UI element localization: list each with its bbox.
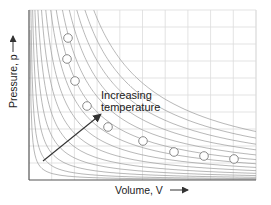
data-point	[71, 77, 80, 86]
data-point	[200, 152, 209, 161]
x-axis-label: Volume, V	[115, 184, 163, 196]
data-point	[230, 155, 239, 164]
y-axis-label: Pressure, p	[7, 54, 19, 108]
data-point	[104, 123, 113, 132]
data-point	[63, 55, 72, 64]
data-point	[64, 34, 73, 43]
data-point	[170, 148, 179, 157]
data-point	[83, 102, 92, 111]
annotation-line2: temperature	[101, 101, 160, 113]
data-point	[139, 137, 148, 146]
annotation-line1: Increasing	[101, 89, 152, 101]
pv-isotherm-chart: Increasing temperature Volume, V Pressur…	[0, 0, 271, 205]
y-axis-label-group: Pressure, p	[7, 54, 19, 108]
